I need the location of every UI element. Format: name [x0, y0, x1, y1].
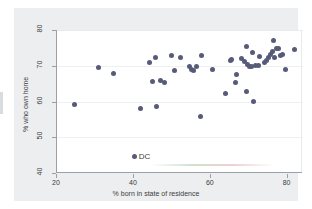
data-point: [198, 114, 203, 119]
y-tick-label-60: 60: [36, 91, 43, 109]
data-point: [276, 46, 281, 51]
data-point: [229, 57, 234, 62]
data-point: [150, 79, 155, 84]
x-tick-label-40: 40: [121, 179, 145, 186]
y-tick-mark-60: [52, 102, 56, 103]
data-point: [210, 67, 215, 72]
data-point: [244, 44, 249, 49]
y-tick-mark-70: [52, 66, 56, 67]
data-point: [272, 55, 277, 60]
scan-edge-artifact: [0, 92, 3, 114]
data-point: [256, 63, 261, 68]
gridline-y-80: [57, 30, 303, 31]
data-point: [250, 50, 255, 55]
y-tick-label-80: 80: [36, 20, 43, 38]
screenshot-root: % who own home % born in state of reside…: [0, 0, 312, 209]
gridline-y-70: [57, 66, 303, 67]
y-tick-label-50: 50: [36, 127, 43, 145]
data-point: [223, 91, 228, 96]
y-tick-mark-50: [52, 137, 56, 138]
data-point: [147, 60, 152, 65]
data-point: [111, 71, 116, 76]
x-tick-label-80: 80: [275, 179, 299, 186]
y-axis-title: % who own home: [22, 76, 29, 131]
x-tick-mark-80: [287, 174, 288, 178]
x-tick-mark-20: [56, 174, 57, 178]
data-point: [72, 102, 77, 107]
data-point: [257, 54, 262, 59]
data-point: [244, 89, 249, 94]
data-point: [271, 38, 276, 43]
dc-marker-icon: [132, 154, 137, 159]
gridline-y-60: [57, 102, 303, 103]
data-point: [178, 55, 183, 60]
dc-annotation: DC: [132, 152, 151, 161]
data-point: [138, 106, 143, 111]
x-axis-title: % born in state of residence: [14, 190, 298, 197]
x-tick-mark-40: [133, 174, 134, 178]
data-point: [292, 47, 297, 52]
y-tick-mark-80: [52, 30, 56, 31]
data-point: [199, 53, 204, 58]
x-tick-mark-60: [210, 174, 211, 178]
y-tick-label-40: 40: [36, 163, 43, 181]
data-point: [172, 68, 177, 73]
data-point: [96, 65, 101, 70]
data-point: [194, 64, 199, 69]
dc-annotation-label: DC: [139, 152, 151, 161]
gridline-y-50: [57, 137, 303, 138]
data-point: [169, 53, 174, 58]
data-point: [283, 67, 288, 72]
data-point: [162, 80, 167, 85]
data-point: [234, 72, 239, 77]
data-point: [153, 55, 158, 60]
data-point: [280, 52, 285, 57]
data-point: [233, 80, 238, 85]
data-point: [154, 104, 159, 109]
data-point: [191, 68, 196, 73]
plot-outer: % who own home % born in state of reside…: [14, 8, 298, 201]
plot-area: [56, 30, 302, 173]
x-tick-label-20: 20: [44, 179, 68, 186]
data-point: [251, 99, 256, 104]
x-tick-label-60: 60: [198, 179, 222, 186]
y-tick-label-70: 70: [36, 55, 43, 73]
